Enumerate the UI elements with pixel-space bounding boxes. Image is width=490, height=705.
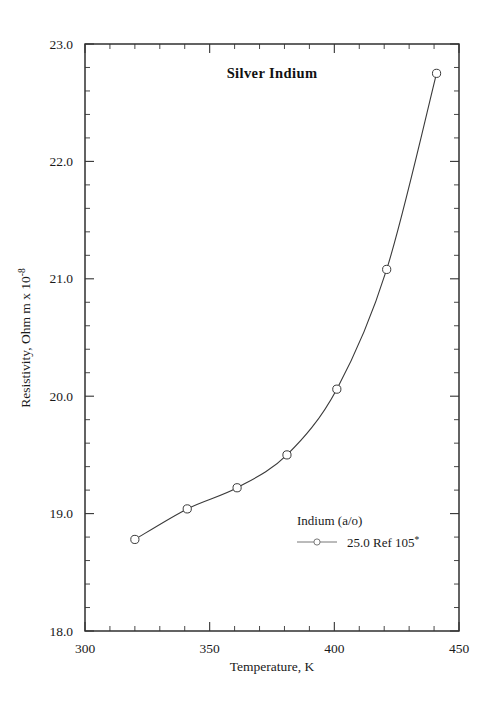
svg-text:Resistivity, Ohm m x 10-8: Resistivity, Ohm m x 10-8 [17,268,33,408]
figure-background [0,0,490,705]
y-tick-label: 21.0 [49,271,73,286]
x-tick-label: 450 [449,641,470,656]
data-point-marker [333,385,341,393]
data-point-marker [183,505,191,513]
data-point-marker [432,69,440,77]
y-axis-label-exponent: -8 [17,268,27,276]
y-tick-label: 22.0 [49,154,73,169]
chart-figure: 300350400450 18.019.020.021.022.023.0 Si… [0,0,490,705]
y-tick-label: 20.0 [49,389,73,404]
data-point-marker [383,265,391,273]
legend-title: Indium (a/o) [297,513,362,528]
chart-title: Silver Indium [227,65,318,81]
data-point-marker [283,451,291,459]
x-tick-label: 350 [200,641,221,656]
x-tick-label: 300 [75,641,96,656]
x-tick-label: 400 [324,641,345,656]
data-point-marker [233,484,241,492]
y-tick-label: 23.0 [49,37,73,52]
y-axis-label-main: Resistivity, Ohm m x 10 [18,276,33,408]
legend-entry-superscript: * [415,535,420,545]
legend-sample-marker [314,539,320,545]
y-tick-label: 18.0 [49,624,73,639]
resistivity-vs-temperature-chart: 300350400450 18.019.020.021.022.023.0 Si… [0,0,490,705]
data-point-marker [131,535,139,543]
y-tick-label: 19.0 [49,506,73,521]
x-axis-label: Temperature, K [230,659,315,674]
legend-entry-text: 25.0 Ref 105 [347,535,415,550]
legend-entry-label: 25.0 Ref 105* [347,535,420,550]
y-axis-label: Resistivity, Ohm m x 10-8 [17,268,33,408]
